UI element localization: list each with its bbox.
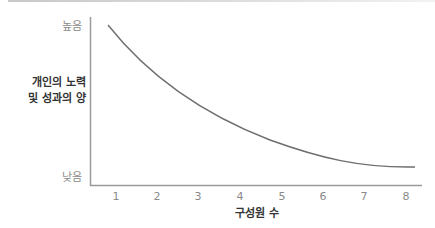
y-axis-title-line-2: 및 성과의 양 bbox=[24, 91, 86, 107]
x-tick-8: 8 bbox=[399, 190, 413, 203]
x-tick-7: 7 bbox=[357, 190, 371, 203]
x-tick-3: 3 bbox=[191, 190, 205, 203]
x-axis-title: 구성원 수 bbox=[235, 204, 279, 220]
y-tick-low: 낮음 bbox=[62, 168, 82, 184]
x-tick-1: 1 bbox=[109, 190, 123, 203]
y-axis-title: 개인의 노력 및 성과의 양 bbox=[24, 75, 86, 107]
x-tick-2: 2 bbox=[150, 190, 164, 203]
y-axis-title-line-1: 개인의 노력 bbox=[24, 75, 86, 91]
x-tick-5: 5 bbox=[275, 190, 289, 203]
y-tick-high: 높음 bbox=[62, 17, 82, 33]
x-tick-4: 4 bbox=[233, 190, 247, 203]
data-curve bbox=[108, 25, 415, 167]
x-tick-6: 6 bbox=[316, 190, 330, 203]
